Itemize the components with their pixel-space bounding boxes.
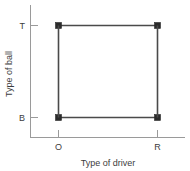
y-tick-label-b: B <box>19 113 25 123</box>
x-tick-label-o: O <box>55 142 62 152</box>
y-axis-title: Type of ball <box>4 51 14 97</box>
interaction-plot: T B O R Type of driver Type of ball <box>0 0 190 171</box>
chart-figure: T B O R Type of driver Type of ball <box>0 0 190 171</box>
y-tick-label-t: T <box>20 21 26 31</box>
x-axis-title: Type of driver <box>81 158 136 168</box>
x-tick-label-r: R <box>154 142 161 152</box>
